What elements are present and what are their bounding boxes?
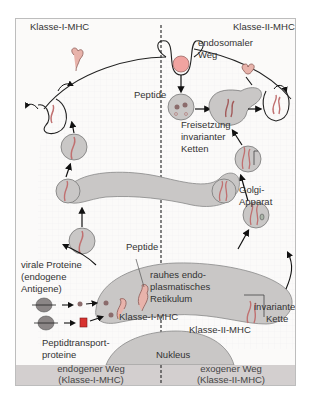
label-peptide-right: Peptide bbox=[134, 89, 166, 100]
label-invariant-1: invariante bbox=[254, 301, 295, 312]
class1-mhc-surface bbox=[72, 48, 83, 71]
golgi-vesicle-upper bbox=[235, 146, 261, 172]
label-class2-mhc-top: Klasse-II-MHC bbox=[233, 21, 295, 32]
label-endosomal-2: Weg bbox=[198, 49, 217, 60]
golgi-cisterna-right bbox=[212, 179, 236, 203]
label-class1-mhc-bottom: Klasse-I-MHC bbox=[119, 311, 178, 322]
label-rer-1: rauhes endo- bbox=[150, 269, 206, 280]
early-endosome bbox=[168, 94, 194, 120]
label-golgi-2: Apparat bbox=[239, 196, 272, 207]
diagram-frame: Klasse-I-MHC exogenes Antigen Klasse-II-… bbox=[15, 18, 296, 386]
label-nucleus: Nukleus bbox=[156, 349, 190, 360]
band-endogenous-line2: (Klasse-I-MHC) bbox=[36, 374, 146, 385]
exogenous-antigen bbox=[173, 56, 189, 72]
label-release-1: Freisetzung bbox=[181, 119, 231, 130]
band-endogenous: endogener Weg (Klasse-I-MHC) bbox=[36, 363, 146, 385]
label-peptide-left: Peptide bbox=[126, 241, 158, 252]
label-viral-3: Antigene) bbox=[21, 283, 62, 294]
peptide-transporter bbox=[80, 318, 87, 327]
label-release-3: Ketten bbox=[181, 143, 208, 154]
label-viral-2: (endogene bbox=[21, 271, 66, 282]
label-rer-3: Retikulum bbox=[150, 293, 192, 304]
label-release-2: invarianter bbox=[181, 131, 225, 142]
label-transport-2: proteine bbox=[42, 349, 76, 360]
label-transport-1: Peptidtransport- bbox=[42, 337, 110, 348]
label-golgi-1: Golgi- bbox=[239, 184, 264, 195]
band-endogenous-line1: endogener Weg bbox=[36, 363, 146, 374]
band-exogenous-line1: exogener Weg bbox=[176, 363, 286, 374]
label-invariant-2: Kette bbox=[266, 313, 288, 324]
label-class2-mhc-bottom: Klasse-II-MHC bbox=[189, 324, 251, 335]
band-exogenous: exogener Weg (Klasse-II-MHC) bbox=[176, 363, 286, 385]
band-exogenous-line2: (Klasse-II-MHC) bbox=[176, 374, 286, 385]
label-class1-mhc-top: Klasse-I-MHC bbox=[30, 21, 89, 32]
label-rer-2: plasmatisches bbox=[150, 281, 210, 292]
label-endosomal-1: endosomaler bbox=[198, 37, 253, 48]
label-viral-1: virale Proteine bbox=[21, 259, 82, 270]
